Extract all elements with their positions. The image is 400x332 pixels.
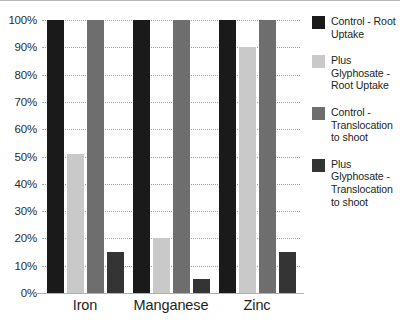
bar-group-zinc xyxy=(214,20,300,293)
y-axis: 100%90%80%70%60%50%40%30%20%10%0% xyxy=(0,15,40,293)
bar[interactable] xyxy=(279,252,296,293)
y-axis-tick-label: 0% xyxy=(21,288,37,298)
legend-item[interactable]: Control - Translocation to shoot xyxy=(312,106,398,144)
bar[interactable] xyxy=(47,20,64,293)
y-axis-tick-label: 80% xyxy=(15,70,37,80)
legend-label: Plus Glyphosate - Translocation to shoot xyxy=(331,158,398,208)
bar-groups xyxy=(42,20,300,293)
bar[interactable] xyxy=(153,238,170,293)
x-axis-label: Zinc xyxy=(214,297,300,313)
bar[interactable] xyxy=(173,20,190,293)
legend-swatch-icon xyxy=(312,16,325,29)
bar[interactable] xyxy=(193,279,210,293)
y-axis-tick-label: 100% xyxy=(8,15,37,25)
bar[interactable] xyxy=(107,252,124,293)
legend-swatch-icon xyxy=(312,159,325,172)
bar[interactable] xyxy=(219,20,236,293)
y-axis-tick-label: 70% xyxy=(15,97,37,107)
y-axis-tick-label: 50% xyxy=(15,152,37,162)
x-axis-labels: IronManganeseZinc xyxy=(42,297,300,313)
bar[interactable] xyxy=(259,20,276,293)
legend-item[interactable]: Control - Root Uptake xyxy=(312,15,398,40)
legend-item[interactable]: Plus Glyphosate - Root Uptake xyxy=(312,54,398,92)
y-axis-tick-label: 40% xyxy=(15,179,37,189)
legend-swatch-icon xyxy=(312,107,325,120)
y-axis-tick-label: 60% xyxy=(15,124,37,134)
x-axis-label: Iron xyxy=(42,297,128,313)
bar[interactable] xyxy=(87,20,104,293)
x-axis-line xyxy=(36,293,304,294)
chart-legend: Control - Root UptakePlus Glyphosate - R… xyxy=(312,15,398,222)
legend-label: Control - Root Uptake xyxy=(331,15,398,40)
legend-item[interactable]: Plus Glyphosate - Translocation to shoot xyxy=(312,158,398,208)
y-axis-tick-label: 20% xyxy=(15,233,37,243)
bar-group-iron xyxy=(42,20,128,293)
chart-frame: 100%90%80%70%60%50%40%30%20%10%0% IronMa… xyxy=(0,0,400,332)
bar[interactable] xyxy=(67,154,84,293)
y-axis-tick-label: 90% xyxy=(15,42,37,52)
y-axis-tick-label: 10% xyxy=(15,261,37,271)
bar-group-manganese xyxy=(128,20,214,293)
legend-label: Plus Glyphosate - Root Uptake xyxy=(331,54,398,92)
x-axis-label: Manganese xyxy=(128,297,214,313)
plot-area: 100%90%80%70%60%50%40%30%20%10%0% IronMa… xyxy=(0,1,306,332)
bar[interactable] xyxy=(239,47,256,293)
y-axis-tick-label: 30% xyxy=(15,206,37,216)
bar[interactable] xyxy=(133,20,150,293)
legend-swatch-icon xyxy=(312,55,325,68)
legend-label: Control - Translocation to shoot xyxy=(331,106,398,144)
